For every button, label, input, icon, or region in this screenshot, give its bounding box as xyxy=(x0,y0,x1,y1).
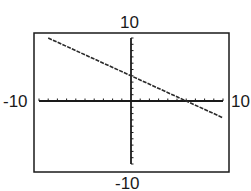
axes xyxy=(39,38,223,164)
graph-plot xyxy=(0,0,251,191)
data-line xyxy=(48,38,223,118)
